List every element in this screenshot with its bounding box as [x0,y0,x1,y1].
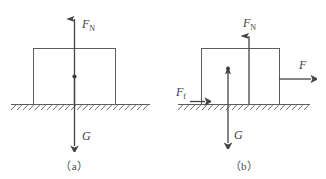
normal-force-subscript-b: N [250,23,256,32]
normal-force-label-a: FN [81,17,95,33]
caption-a: （a） [60,160,88,172]
caption-b: （b） [230,160,259,172]
block-b [202,49,280,105]
ground-hatching-a [11,105,150,111]
normal-force-subscript-a: N [89,24,95,33]
panel-a: FN G （a） [11,17,150,172]
physics-free-body-diagram: FN G （a） [0,0,326,179]
center-of-mass-dot-b [226,67,230,71]
gravity-force-label-b: G [234,128,243,142]
figure-root: FN G （a） [0,0,326,179]
friction-force-subscript-b: f [183,92,186,101]
gravity-force-label-a: G [82,129,91,143]
ground-hatching-b [178,105,310,111]
center-of-mass-dot-a [72,74,76,78]
panel-b: FN G F Ff （b） [175,16,311,172]
friction-force-label-b: Ff [175,85,186,101]
applied-force-label-b: F [298,58,307,72]
normal-force-label-b: FN [242,16,256,32]
